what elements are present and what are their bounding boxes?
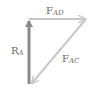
arrow-f-ac <box>32 19 86 83</box>
label-f-ad: FAD <box>46 5 64 17</box>
force-triangle-diagram: FAD RA FAC <box>0 0 91 91</box>
label-f-ac: FAC <box>62 53 80 65</box>
label-r-a: RA <box>11 45 24 57</box>
vector-f-ac <box>32 19 86 83</box>
